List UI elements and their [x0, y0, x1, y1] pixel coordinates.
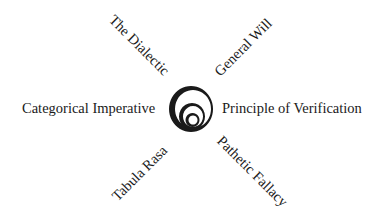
label-principle-of-verification: Principle of Verification: [222, 101, 362, 116]
label-tabula-rasa: Tabula Rasa: [109, 143, 170, 204]
label-categorical-imperative: Categorical Imperative: [22, 101, 155, 116]
label-pathetic-fallacy: Pathetic Fallacy: [214, 133, 290, 209]
concentric-circles-icon: [168, 84, 216, 134]
label-general-will: General Will: [212, 16, 275, 79]
label-the-dialectic: The Dialectic: [106, 12, 172, 78]
